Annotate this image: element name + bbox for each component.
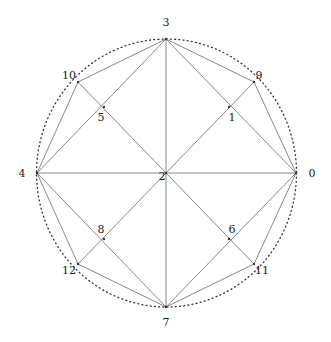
node-12 — [77, 263, 79, 265]
node-label-5: 5 — [98, 111, 105, 124]
node-label-6: 6 — [229, 223, 236, 236]
node-5 — [103, 106, 105, 108]
edge-3-10 — [78, 39, 166, 82]
edge-11-0 — [254, 173, 296, 264]
node-label-10: 10 — [62, 69, 76, 82]
graph-diagram: 0123456789101112 — [0, 0, 331, 342]
node-label-7: 7 — [163, 316, 170, 329]
node-label-8: 8 — [98, 223, 105, 236]
edge-7-11 — [166, 264, 254, 307]
node-7 — [165, 306, 167, 308]
edge-12-7 — [78, 264, 166, 307]
node-6 — [228, 238, 230, 240]
node-4 — [36, 172, 38, 174]
node-label-0: 0 — [309, 167, 316, 180]
node-label-4: 4 — [19, 167, 26, 180]
edge-9-3 — [166, 39, 254, 82]
edge-0-9 — [254, 82, 296, 173]
node-label-12: 12 — [62, 264, 76, 277]
node-0 — [295, 172, 297, 174]
node-label-11: 11 — [255, 264, 269, 277]
node-label-9: 9 — [256, 69, 263, 82]
diagram-canvas: 0123456789101112 — [0, 0, 331, 342]
node-label-2: 2 — [159, 170, 166, 183]
node-3 — [165, 38, 167, 40]
edge-4-12 — [37, 173, 78, 264]
node-label-3: 3 — [163, 16, 170, 29]
node-8 — [103, 238, 105, 240]
node-1 — [228, 106, 230, 108]
edge-10-4 — [37, 82, 78, 173]
node-label-1: 1 — [229, 111, 236, 124]
node-10 — [77, 81, 79, 83]
